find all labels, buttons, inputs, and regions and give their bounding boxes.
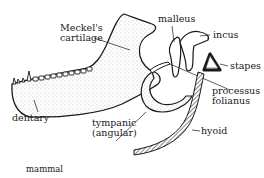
label-tympanic: tympanic (angular) [92, 118, 137, 138]
label-malleus: malleus [158, 14, 195, 24]
label-dentary: dentary [12, 113, 49, 123]
label-meckels-cartilage: Meckel's cartilage [60, 23, 103, 43]
stapes-leader [220, 64, 228, 66]
tympanic-ring [141, 72, 192, 112]
label-tympanic-line2: (angular) [92, 128, 137, 138]
label-incus: incus [213, 30, 238, 40]
label-processus-line2: folianus [212, 96, 260, 106]
figure-caption: mammal [26, 164, 63, 174]
label-hyoid: hyoid [201, 126, 227, 136]
hyoid-leader [192, 130, 200, 131]
label-processus-folianus: processus folianus [212, 86, 260, 106]
malleus-bone [169, 37, 180, 77]
label-stapes: stapes [230, 61, 261, 71]
stapes-bone [204, 54, 220, 70]
mammal-jaw-ear-diagram: Meckel's cartilage malleus incus stapes … [0, 0, 264, 178]
label-meckels-line2: cartilage [60, 33, 103, 43]
meckels-cartilage [150, 62, 170, 73]
